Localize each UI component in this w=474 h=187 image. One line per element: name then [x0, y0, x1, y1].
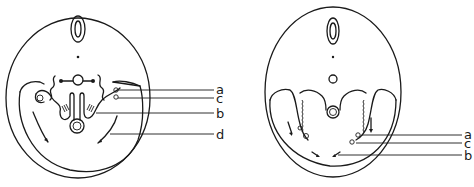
label-d-left: d	[216, 128, 224, 141]
label-b-left: b	[216, 107, 224, 120]
label-b-right: b	[464, 149, 472, 162]
diagram-canvas	[0, 0, 474, 187]
label-c-left: c	[216, 92, 223, 105]
outer-ellipse	[265, 7, 401, 177]
right-embryo	[265, 7, 462, 177]
left-embryo	[6, 16, 214, 178]
